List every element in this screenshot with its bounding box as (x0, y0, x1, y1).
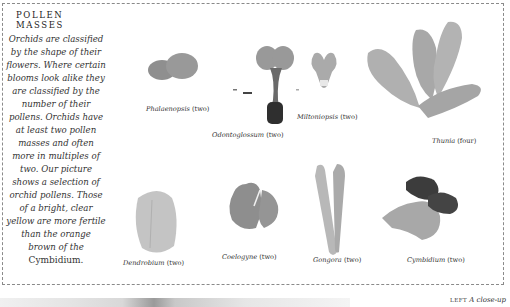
specimen-count: (two) (192, 105, 209, 113)
panel-body-text: Orchids are classified by the shape of t… (6, 33, 106, 267)
phalaenopsis-pollen-image (142, 48, 222, 88)
dendrobium-pollen-image (128, 188, 188, 268)
specimen-caption: Dendrobium (two) (123, 259, 184, 267)
specimen-caption: Coelogyne (two) (222, 253, 277, 261)
specimen-caption: Odontoglossum (two) (212, 131, 284, 139)
specimen-name: Phalaenopsis (146, 105, 190, 113)
caption-label: LEFT (450, 297, 467, 303)
specimen-count: (two) (266, 131, 283, 139)
specimen-name: Thunia (432, 137, 455, 145)
specimen-count: (four) (457, 137, 476, 145)
specimen-caption: Miltoniopsis (two) (297, 113, 358, 121)
panel-body-italic: Orchids are classified by the shape of t… (6, 34, 106, 252)
specimen-caption: Thunia (four) (432, 137, 476, 145)
specimen-name: Odontoglossum (212, 131, 264, 139)
specimen-count: (two) (340, 113, 357, 121)
specimen-count: (two) (344, 256, 361, 264)
photo-strip-edge (0, 298, 350, 307)
footer-caption: LEFTA close-up (450, 296, 506, 304)
sidebar-text-block: POLLEN MASSES Orchids are classified by … (6, 10, 106, 267)
miltoniopsis-pollen-image (306, 48, 346, 98)
specimen-name: Coelogyne (222, 253, 257, 261)
gongora-pollen-image (313, 162, 353, 262)
thunia-pollen-image (360, 18, 510, 128)
specimen-count: (two) (447, 256, 464, 264)
specimen-name: Cymbidium (407, 256, 445, 264)
specimen-count: (two) (259, 253, 276, 261)
specimen-caption: Phalaenopsis (two) (146, 105, 209, 113)
caption-text: A close-up (469, 296, 506, 304)
coelogyne-pollen-image (226, 180, 286, 240)
specimen-name: Miltoniopsis (297, 113, 338, 121)
specimen-caption: Cymbidium (two) (407, 256, 465, 264)
specimen-name: Gongora (313, 256, 342, 264)
panel-title: POLLEN MASSES (16, 10, 106, 30)
specimen-count: (two) (167, 259, 184, 267)
specimen-caption: Gongora (two) (313, 256, 361, 264)
cymbidium-pollen-image (378, 170, 478, 250)
panel-body-roman-end: Cymbidium. (29, 255, 84, 265)
specimen-name: Dendrobium (123, 259, 165, 267)
